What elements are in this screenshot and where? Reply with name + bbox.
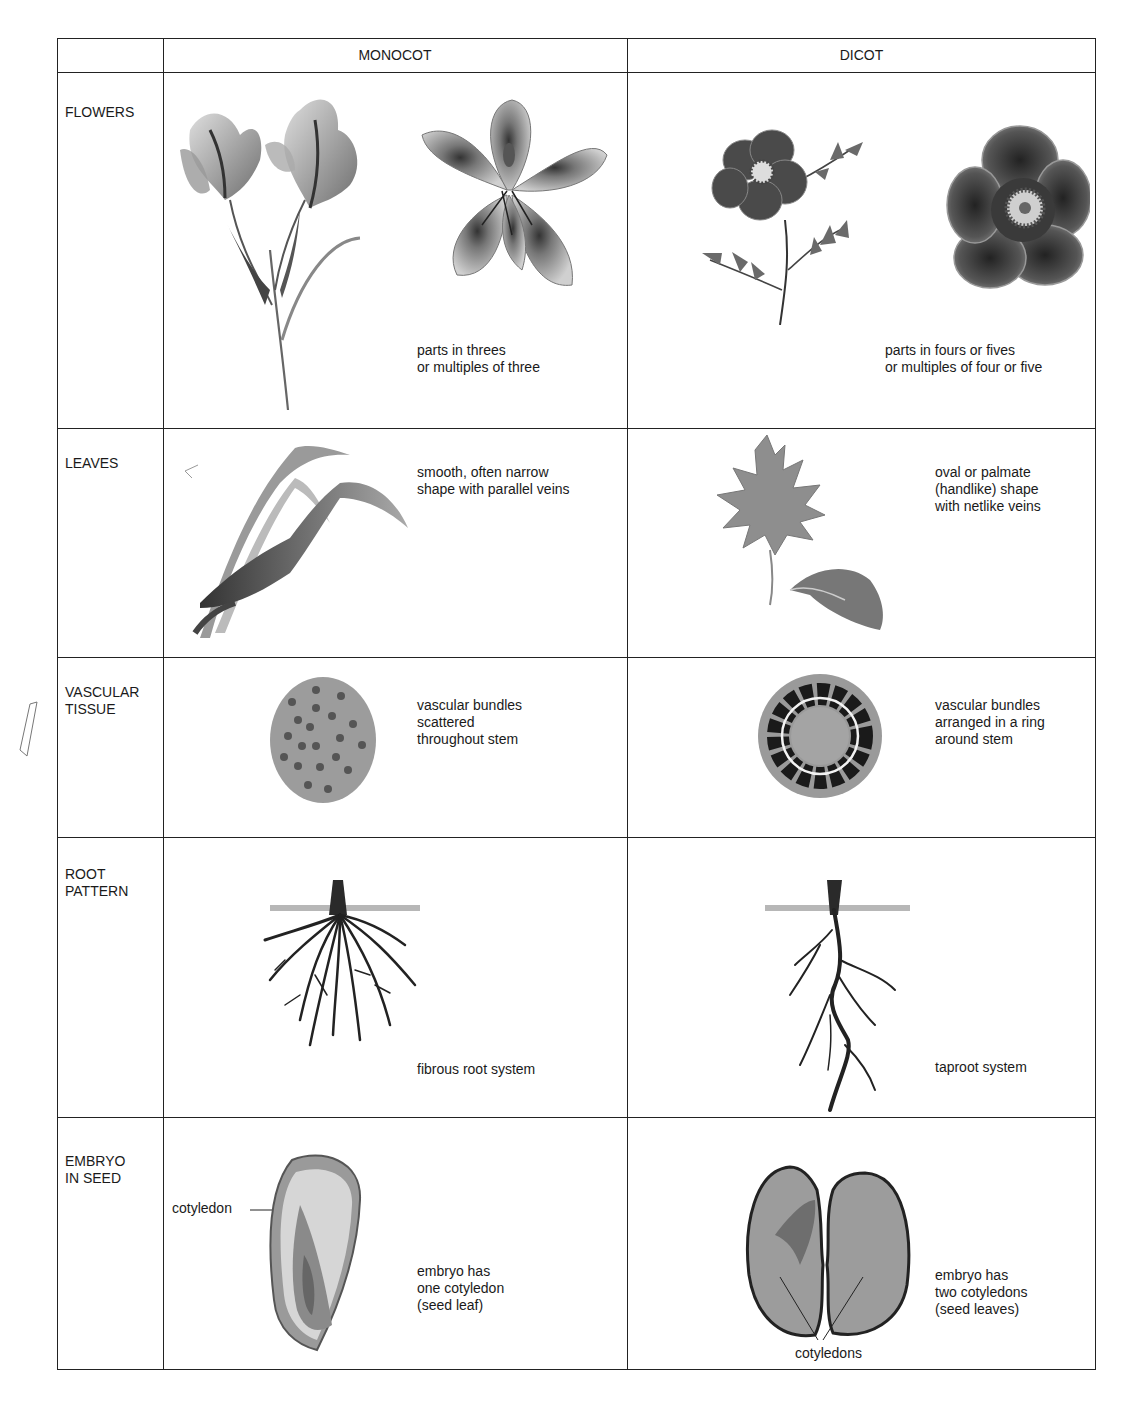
- row-label-vascular-tissue: VASCULAR TISSUE: [65, 684, 139, 718]
- caption-line: vascular bundles: [417, 697, 522, 714]
- caption-line: vascular bundles: [935, 697, 1045, 714]
- caption-line: (seed leaves): [935, 1301, 1028, 1318]
- caption-line: arranged in a ring: [935, 714, 1045, 731]
- caption-line: one cotyledon: [417, 1280, 504, 1297]
- column-divider-label: [163, 38, 164, 1370]
- caption-monocot-embryo: embryo has one cotyledon (seed leaf): [417, 1263, 504, 1314]
- column-header-dicot: DICOT: [627, 38, 1096, 72]
- ring-bundles-stem-cross-section: [756, 672, 884, 800]
- caption-line: embryo has: [417, 1263, 504, 1280]
- iris-plant-illustration: [170, 90, 370, 415]
- caption-line: two cotyledons: [935, 1284, 1028, 1301]
- row-divider-leaves: [57, 657, 1096, 658]
- caption-line: (seed leaf): [417, 1297, 504, 1314]
- iris-flower-closeup-illustration: [412, 95, 617, 295]
- caption-dicot-vascular: vascular bundles arranged in a ring arou…: [935, 697, 1045, 748]
- rose-flower-closeup-illustration: [945, 120, 1090, 290]
- row-label-line: TISSUE: [65, 701, 139, 718]
- caption-dicot-flowers: parts in fours or fives or multiples of …: [885, 342, 1042, 376]
- row-label-line: PATTERN: [65, 883, 128, 900]
- caption-line: throughout stem: [417, 731, 522, 748]
- caption-dicot-embryo: embryo has two cotyledons (seed leaves): [935, 1267, 1028, 1318]
- scattered-bundles-stem-cross-section: [268, 675, 378, 805]
- row-divider-root: [57, 1117, 1096, 1118]
- row-label-root-pattern: ROOT PATTERN: [65, 866, 128, 900]
- caption-monocot-flowers: parts in threes or multiples of three: [417, 342, 540, 376]
- row-label-line: LEAVES: [65, 455, 118, 472]
- caption-dicot-root: taproot system: [935, 1059, 1027, 1076]
- dicot-seed-cross-section: [745, 1165, 915, 1345]
- row-label-leaves: LEAVES: [65, 455, 118, 472]
- caption-monocot-leaves: smooth, often narrow shape with parallel…: [417, 464, 570, 498]
- row-label-flowers: FLOWERS: [65, 104, 134, 121]
- row-label-line: FLOWERS: [65, 104, 134, 121]
- callout-cotyledons-label: cotyledons: [795, 1345, 862, 1362]
- row-label-line: ROOT: [65, 866, 128, 883]
- caption-line: (handlike) shape: [935, 481, 1041, 498]
- row-divider-flowers: [57, 428, 1096, 429]
- caption-line: fibrous root system: [417, 1061, 535, 1078]
- caption-line: or multiples of four or five: [885, 359, 1042, 376]
- caption-line: embryo has: [935, 1267, 1028, 1284]
- caption-line: with netlike veins: [935, 498, 1041, 515]
- caption-line: oval or palmate: [935, 464, 1041, 481]
- caption-line: around stem: [935, 731, 1045, 748]
- narrow-leaf-illustration: [180, 443, 415, 643]
- column-divider-middle: [627, 38, 628, 1370]
- row-label-embryo-in-seed: EMBRYO IN SEED: [65, 1153, 125, 1187]
- row-label-line: EMBRYO: [65, 1153, 125, 1170]
- monocot-seed-cross-section: [262, 1150, 372, 1355]
- callout-cotyledon-label: cotyledon: [172, 1200, 232, 1217]
- caption-line: smooth, often narrow: [417, 464, 570, 481]
- caption-line: parts in threes: [417, 342, 540, 359]
- caption-line: taproot system: [935, 1059, 1027, 1076]
- fibrous-root-illustration: [255, 875, 435, 1075]
- caption-line: scattered: [417, 714, 522, 731]
- row-label-line: IN SEED: [65, 1170, 125, 1187]
- taproot-illustration: [760, 875, 920, 1115]
- caption-line: or multiples of three: [417, 359, 540, 376]
- pencil-mark-icon: [18, 700, 40, 760]
- column-header-monocot: MONOCOT: [163, 38, 627, 72]
- row-divider-vascular: [57, 837, 1096, 838]
- caption-line: shape with parallel veins: [417, 481, 570, 498]
- rose-sprig-illustration: [690, 120, 880, 325]
- caption-monocot-vascular: vascular bundles scattered throughout st…: [417, 697, 522, 748]
- header-divider: [57, 72, 1096, 73]
- caption-dicot-leaves: oval or palmate (handlike) shape with ne…: [935, 464, 1041, 515]
- caption-line: parts in fours or fives: [885, 342, 1042, 359]
- caption-monocot-root: fibrous root system: [417, 1061, 535, 1078]
- row-label-line: VASCULAR: [65, 684, 139, 701]
- palmate-and-oval-leaf-illustration: [715, 430, 895, 640]
